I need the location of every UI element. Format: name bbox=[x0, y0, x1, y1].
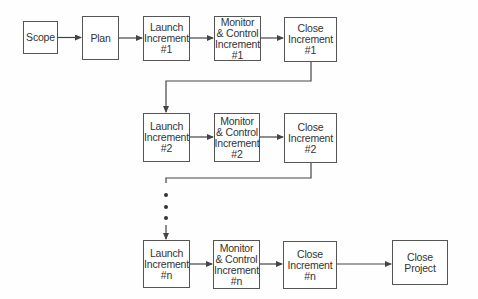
connector-close1-launch2 bbox=[166, 62, 311, 112]
node-launch-increment-n: Launch Increment #n bbox=[143, 240, 190, 288]
node-plan: Plan bbox=[82, 16, 119, 60]
ellipsis-dots bbox=[164, 193, 168, 220]
node-launch-increment-2: Launch Increment #2 bbox=[143, 113, 190, 162]
node-close-increment-1: Close Increment #1 bbox=[284, 17, 337, 62]
node-close-project: Close Project bbox=[392, 240, 448, 285]
node-monitor-control-increment-n: Monitor & Control Increment #n bbox=[213, 240, 260, 289]
node-monitor-control-increment-2: Monitor & Control Increment #2 bbox=[214, 113, 260, 162]
node-scope: Scope bbox=[23, 21, 58, 54]
node-close-increment-n: Close Increment #n bbox=[283, 241, 337, 289]
node-monitor-control-increment-1: Monitor & Control Increment #1 bbox=[214, 16, 261, 61]
node-launch-increment-1: Launch Increment #1 bbox=[143, 16, 190, 61]
connector-close2-ellipsis bbox=[166, 163, 311, 183]
diagram-canvas: Scope Plan Launch Increment #1 Monitor &… bbox=[0, 0, 478, 299]
node-close-increment-2: Close Increment #2 bbox=[284, 113, 337, 163]
